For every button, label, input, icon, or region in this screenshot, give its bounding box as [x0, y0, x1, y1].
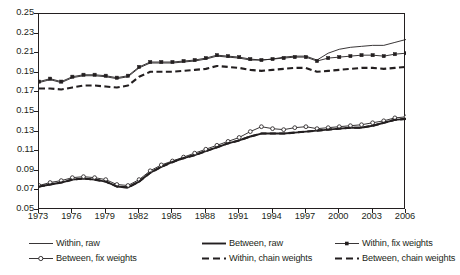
x-tick-mark — [338, 209, 339, 213]
x-tick-mark — [71, 209, 72, 213]
x-tick-label: 1976 — [61, 212, 81, 221]
x-tick-label: 1991 — [228, 212, 248, 221]
x-tick-label: 2000 — [328, 212, 348, 221]
legend-label: Between, chain weights — [362, 254, 455, 263]
x-tick-mark — [38, 209, 39, 213]
legend-swatch — [334, 238, 360, 249]
legend-item: Between, raw — [201, 238, 334, 249]
x-tick-mark — [272, 209, 273, 213]
x-tick-label: 1994 — [261, 212, 281, 221]
x-tick-label: 1985 — [161, 212, 181, 221]
legend-swatch — [201, 238, 227, 249]
x-tick-mark — [105, 209, 106, 213]
x-tick-mark — [238, 209, 239, 213]
x-tick-label: 1988 — [195, 212, 215, 221]
legend-item: Between, fix weights — [28, 253, 201, 264]
x-tick-label: 1973 — [28, 212, 48, 221]
x-tick-label: 2003 — [361, 212, 381, 221]
x-tick-mark — [138, 209, 139, 213]
x-tick-mark — [171, 209, 172, 213]
legend-label: Between, raw — [229, 239, 283, 248]
legend-label: Within, raw — [56, 239, 100, 248]
legend-label: Between, fix weights — [56, 254, 137, 263]
x-tick-mark — [305, 209, 306, 213]
legend-label: Within, chain weights — [229, 254, 312, 263]
x-tick-label: 2006 — [395, 212, 415, 221]
legend-item: Within, raw — [28, 238, 201, 249]
legend-swatch — [201, 253, 227, 264]
legend-label: Within, fix weights — [362, 239, 433, 248]
x-tick-mark — [372, 209, 373, 213]
x-tick-label: 1979 — [95, 212, 115, 221]
x-tick-label: 1982 — [128, 212, 148, 221]
x-tick-mark — [205, 209, 206, 213]
legend-marker — [39, 256, 43, 260]
legend-item: Within, fix weights — [334, 238, 460, 249]
legend-swatch — [334, 253, 360, 264]
x-tick-label: 1997 — [295, 212, 315, 221]
chart-legend: Within, rawBetween, rawWithin, fix weigh… — [28, 236, 414, 268]
legend-item: Within, chain weights — [201, 253, 334, 264]
legend-swatch — [28, 253, 54, 264]
legend-item: Between, chain weights — [334, 253, 460, 264]
legend-marker — [345, 242, 349, 246]
legend-swatch — [28, 238, 54, 249]
x-tick-mark — [405, 209, 406, 213]
